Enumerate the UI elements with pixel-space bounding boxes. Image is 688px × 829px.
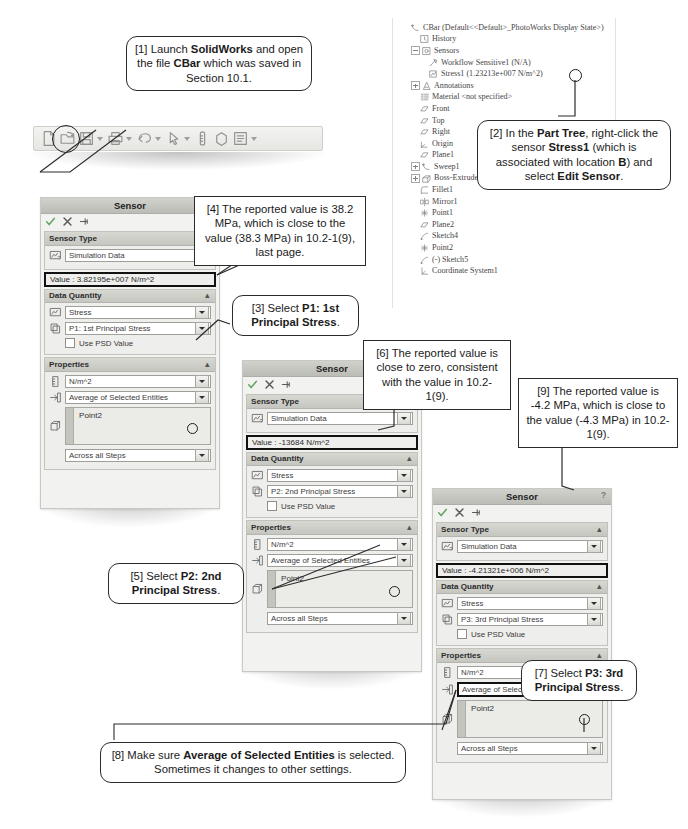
- data-quantity-body: StressP2: 2nd Principal StressUse PSD Va…: [247, 466, 417, 517]
- callout-1-leader: [40, 128, 150, 176]
- tree-expander-spacer: [411, 198, 418, 205]
- tree-item-label: Workflow Sensitive1 (N/A): [441, 59, 531, 67]
- chevron-up-icon[interactable]: ▲: [405, 523, 413, 532]
- tree-item-label: History: [432, 35, 456, 43]
- plane-icon: [419, 104, 430, 114]
- criterion-icon: [49, 391, 62, 404]
- sensor-panel-1[interactable]: Sensor?Sensor Type▲?Simulation DataValue…: [40, 197, 220, 509]
- use-psd-row[interactable]: Use PSD Value: [457, 629, 603, 639]
- plane-icon: [419, 220, 430, 230]
- callout-5-leader: [272, 545, 400, 593]
- point-icon: [419, 243, 430, 253]
- plane-icon: [419, 116, 430, 126]
- tree-expander[interactable]: [411, 174, 420, 183]
- appearance-icon[interactable]: [213, 130, 230, 147]
- toolbar-caret[interactable]: [251, 137, 257, 141]
- chevron-up-icon[interactable]: ▲: [595, 525, 603, 534]
- tree-item-sensors[interactable]: Sensors: [402, 45, 682, 57]
- steps-combo[interactable]: Across all Steps: [457, 742, 603, 755]
- select-icon[interactable]: [165, 130, 182, 147]
- pin-icon[interactable]: [281, 379, 292, 390]
- measure-icon[interactable]: [194, 130, 211, 147]
- chevron-down-icon[interactable]: [587, 613, 601, 626]
- component-combo[interactable]: P3: 3rd Principal Stress: [457, 613, 603, 626]
- criterion-combo[interactable]: Average of Selected Entities: [65, 391, 211, 404]
- use-psd-checkbox[interactable]: [267, 501, 277, 511]
- tree-item-sketch5[interactable]: (-) Sketch5: [402, 254, 682, 266]
- callout-3: [3] Select P1: 1st Principal Stress.: [232, 295, 359, 336]
- sensor-panel-3[interactable]: Sensor?Sensor Type▲?Simulation DataValue…: [432, 488, 612, 800]
- chevron-down-icon[interactable]: [397, 485, 411, 498]
- tree-item-point2[interactable]: Point2: [402, 242, 682, 254]
- toolbar-caret[interactable]: [184, 137, 190, 141]
- chevron-up-icon[interactable]: ▲: [203, 360, 211, 369]
- steps-combo[interactable]: Across all Steps: [267, 612, 413, 625]
- use-psd-label: Use PSD Value: [471, 630, 525, 639]
- tree-item-workflow-sensitive1-n-a[interactable]: Workflow Sensitive1 (N/A): [402, 57, 682, 69]
- data-quantity-header[interactable]: Data Quantity▲: [45, 290, 215, 304]
- tree-item-history[interactable]: History: [402, 34, 682, 46]
- tree-expander-spacer: [411, 233, 418, 240]
- tree-item-sketch4[interactable]: Sketch4: [402, 231, 682, 243]
- sim-data-icon: ?: [251, 412, 264, 425]
- data-quantity-header[interactable]: Data Quantity▲: [247, 453, 417, 467]
- tree-item-coordinate-system1[interactable]: Coordinate System1: [402, 265, 682, 277]
- properties-header[interactable]: Properties▲: [45, 358, 215, 372]
- chevron-up-icon[interactable]: ▲: [595, 651, 603, 660]
- tree-expander[interactable]: [411, 46, 420, 55]
- confirm-check-icon[interactable]: [437, 507, 448, 518]
- chevron-up-icon[interactable]: ▲: [405, 454, 413, 463]
- properties-header[interactable]: Properties▲: [247, 521, 417, 535]
- use-psd-checkbox[interactable]: [457, 629, 467, 639]
- options-icon[interactable]: [232, 130, 249, 147]
- sensor-type-combo[interactable]: Simulation Data: [65, 249, 211, 262]
- quantity-combo[interactable]: Stress: [267, 469, 413, 482]
- use-psd-row[interactable]: Use PSD Value: [65, 338, 211, 348]
- sensor-type-header[interactable]: Sensor Type▲: [45, 232, 215, 246]
- list-item[interactable]: Point2: [74, 408, 102, 444]
- component-combo-value: P2: 2nd Principal Stress: [268, 487, 397, 496]
- chevron-up-icon[interactable]: ▲: [595, 582, 603, 591]
- tree-item-plane2[interactable]: Plane2: [402, 219, 682, 231]
- tree-expander[interactable]: [402, 24, 409, 31]
- use-psd-row[interactable]: Use PSD Value: [267, 501, 413, 511]
- tree-item-label: Mirror1: [432, 198, 458, 206]
- tree-item-mirror1[interactable]: Mirror1: [402, 196, 682, 208]
- chevron-down-icon[interactable]: [397, 469, 411, 482]
- chevron-up-icon[interactable]: ▲: [203, 291, 211, 300]
- chevron-down-icon[interactable]: [587, 540, 601, 553]
- data-quantity-header[interactable]: Data Quantity▲: [437, 581, 607, 595]
- chevron-down-icon[interactable]: [195, 375, 209, 388]
- component-combo[interactable]: P2: 2nd Principal Stress: [267, 485, 413, 498]
- pin-icon[interactable]: [79, 216, 90, 227]
- callout-7: [7] Select P3: 3rd Principal Stress.: [521, 660, 637, 701]
- list-item[interactable]: Point2: [466, 701, 494, 737]
- units-combo[interactable]: N/m^2: [65, 375, 211, 388]
- tree-root[interactable]: CBar (Default<<Default>_PhotoWorks Displ…: [402, 22, 682, 34]
- chevron-down-icon[interactable]: [195, 391, 209, 404]
- chevron-down-icon[interactable]: [195, 449, 209, 462]
- toolbar-caret[interactable]: [155, 137, 161, 141]
- cancel-x-icon[interactable]: [264, 379, 275, 390]
- confirm-check-icon[interactable]: [247, 379, 258, 390]
- steps-combo[interactable]: Across all Steps: [65, 449, 211, 462]
- quantity-combo[interactable]: Stress: [457, 597, 603, 610]
- data-quantity-header-label: Data Quantity: [441, 582, 494, 591]
- cancel-x-icon[interactable]: [454, 507, 465, 518]
- tree-expander[interactable]: [411, 162, 420, 171]
- quantity-combo[interactable]: Stress: [65, 306, 211, 319]
- pin-icon[interactable]: [471, 507, 482, 518]
- tree-item-point1[interactable]: Point1: [402, 208, 682, 220]
- use-psd-checkbox[interactable]: [65, 338, 75, 348]
- chevron-down-icon[interactable]: [397, 612, 411, 625]
- help-icon[interactable]: ?: [601, 490, 606, 500]
- tree-expander[interactable]: [411, 81, 420, 90]
- tree-expander-spacer: [420, 59, 427, 66]
- chevron-down-icon[interactable]: [587, 742, 601, 755]
- cancel-x-icon[interactable]: [62, 216, 73, 227]
- component-combo[interactable]: P1: 1st Principal Stress: [65, 322, 211, 335]
- chevron-down-icon[interactable]: [587, 597, 601, 610]
- sensor-type-combo[interactable]: Simulation Data: [457, 540, 603, 553]
- sensor-type-header[interactable]: Sensor Type▲: [437, 523, 607, 537]
- confirm-check-icon[interactable]: [45, 216, 56, 227]
